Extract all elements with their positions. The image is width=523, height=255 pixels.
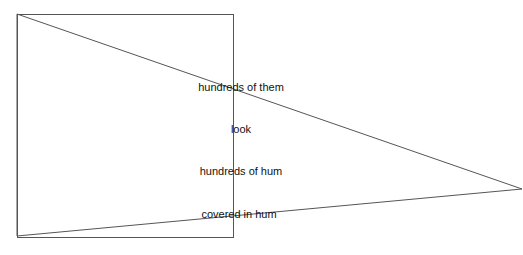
label-hundreds-of-hum: hundreds of hum: [200, 165, 283, 178]
label-hundreds-of-them: hundreds of them: [198, 81, 284, 94]
label-look: look: [231, 123, 251, 136]
triangle-shape: [17, 14, 522, 236]
rectangle-shape: [18, 15, 234, 238]
label-covered-in-hum: covered in hum: [201, 208, 276, 221]
